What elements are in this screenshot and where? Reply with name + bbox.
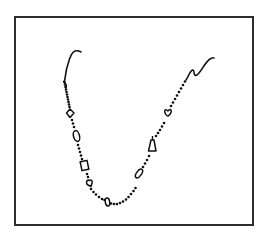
heart-charm-left-icon xyxy=(87,180,93,187)
diamond-charm-icon xyxy=(67,109,75,118)
heart-charm-right-icon xyxy=(165,110,172,116)
square-charm-icon xyxy=(80,160,89,170)
oval-charm-right-icon xyxy=(134,168,144,179)
left-clasp-icon xyxy=(64,51,81,82)
oval-charm-bottom-icon xyxy=(105,198,111,207)
bead-string xyxy=(63,80,186,205)
bell-charm-icon xyxy=(149,140,157,151)
necklace-drawing xyxy=(0,0,266,233)
right-chain-end-icon xyxy=(186,58,214,80)
oval-charm-left-icon xyxy=(72,130,81,142)
